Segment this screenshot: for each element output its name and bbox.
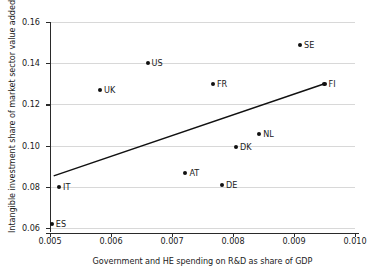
point-label: UK <box>104 86 115 94</box>
data-point <box>298 43 302 47</box>
data-point <box>57 185 61 189</box>
point-label: FR <box>217 80 227 88</box>
data-point <box>220 183 224 187</box>
data-point <box>50 222 54 226</box>
data-point <box>234 145 238 149</box>
regression-line <box>54 84 325 176</box>
point-label: NL <box>263 130 274 138</box>
data-point <box>322 82 326 86</box>
point-label: DE <box>226 181 237 189</box>
point-label: AT <box>189 169 199 177</box>
data-point <box>146 61 150 65</box>
point-label: IT <box>63 183 70 191</box>
point-label: SE <box>304 41 314 49</box>
point-label: US <box>152 59 163 67</box>
point-label: ES <box>56 220 66 228</box>
scatter-chart: Intangible investment share of market se… <box>0 0 374 274</box>
point-label: FI <box>329 80 336 88</box>
point-label: DK <box>240 143 252 151</box>
data-point <box>211 82 215 86</box>
